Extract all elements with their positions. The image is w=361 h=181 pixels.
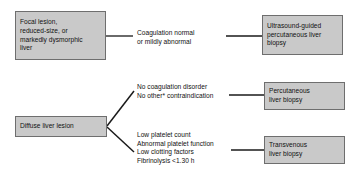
edge-label-low-platelet-line-1: Low platelet count xyxy=(137,131,214,140)
node-ultrasound-guided-biopsy-line-2: percutaneous liver xyxy=(267,31,338,40)
edge-label-coagulation-normal: Coagulation normal or mildly abnormal xyxy=(137,29,195,46)
node-percutaneous-biopsy: Percutaneous liver biopsy xyxy=(264,82,345,110)
node-transvenous-biopsy: Transvenous liver biopsy xyxy=(264,136,345,164)
edge-label-low-platelet-line-3: Low clotting factors xyxy=(137,148,214,157)
edge-label-no-coagulation-disorder-line-1: No coagulation disorder xyxy=(137,83,213,92)
node-percutaneous-biopsy-line-2: liver biopsy xyxy=(269,96,340,105)
flowchart-canvas: Focal lesion, reduced-size, or markedly … xyxy=(0,0,361,181)
edge-label-coagulation-normal-line-2: or mildly abnormal xyxy=(137,38,195,47)
node-focal-lesion-line-1: Focal lesion, xyxy=(20,18,101,27)
node-percutaneous-biopsy-line-1: Percutaneous xyxy=(269,87,340,96)
node-focal-lesion-line-4: liver xyxy=(20,44,101,53)
edge-label-low-platelet-line-4: Fibrinolysis <1.30 h xyxy=(137,157,214,166)
edge-label-low-platelet-line-2: Abnormal platelet function xyxy=(137,140,214,149)
edge-label-low-platelet: Low platelet count Abnormal platelet fun… xyxy=(137,131,214,166)
connector-diffuse-to-lowplatelet xyxy=(107,127,134,152)
node-ultrasound-guided-biopsy-line-1: Ultrasound-guided xyxy=(267,22,338,31)
node-diffuse-liver-lesion: Diffuse liver lesion xyxy=(15,116,107,137)
edge-label-no-coagulation-disorder-line-2: No other* contraindication xyxy=(137,92,213,101)
node-focal-lesion-line-2: reduced-size, or xyxy=(20,27,101,36)
node-transvenous-biopsy-line-1: Transvenous xyxy=(269,141,340,150)
connector-diffuse-to-nocoag xyxy=(107,91,134,126)
node-ultrasound-guided-biopsy-line-3: biopsy xyxy=(267,39,338,48)
node-diffuse-liver-lesion-line-1: Diffuse liver lesion xyxy=(20,122,102,131)
edge-label-coagulation-normal-line-1: Coagulation normal xyxy=(137,29,195,38)
edge-label-no-coagulation-disorder: No coagulation disorder No other* contra… xyxy=(137,83,213,100)
node-ultrasound-guided-biopsy: Ultrasound-guided percutaneous liver bio… xyxy=(262,15,343,55)
node-focal-lesion-line-3: markedly dysmorphic xyxy=(20,36,101,45)
node-transvenous-biopsy-line-2: liver biopsy xyxy=(269,150,340,159)
node-focal-lesion: Focal lesion, reduced-size, or markedly … xyxy=(15,11,106,60)
